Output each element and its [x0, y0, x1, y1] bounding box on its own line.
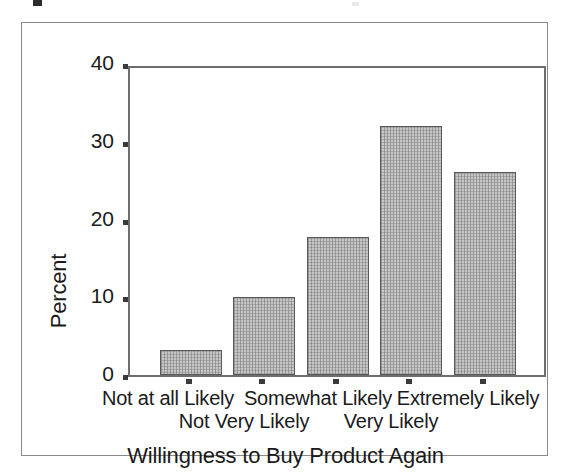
bar-not-very-likely[interactable]	[233, 297, 295, 375]
y-axis-title: Percent	[46, 221, 72, 361]
y-tick-label-10: 10	[91, 285, 114, 306]
bar-somewhat-likely[interactable]	[307, 237, 369, 375]
x-category-label-somewhat-likely: Somewhat Likely	[244, 387, 392, 409]
y-tick-label-40: 40	[91, 52, 114, 73]
x-tick-mark-4	[480, 379, 486, 384]
x-tick-mark-2	[333, 379, 339, 384]
x-category-label-extremely-likely: Extremely Likely	[397, 387, 539, 409]
x-axis-title: Willingness to Buy Product Again	[22, 443, 549, 469]
x-category-label-not-very-likely: Not Very Likely	[179, 410, 309, 432]
x-tick-mark-0	[186, 379, 192, 384]
y-tick-label-20: 20	[91, 208, 114, 229]
scan-artifact-mark-secondary	[352, 2, 359, 6]
bar-not-at-all-likely[interactable]	[160, 350, 222, 375]
x-tick-mark-3	[406, 379, 412, 384]
x-category-label-very-likely: Very Likely	[344, 410, 439, 432]
bar-very-likely[interactable]	[380, 126, 442, 375]
x-tick-mark-1	[259, 379, 265, 384]
y-tick-label-30: 30	[91, 130, 114, 151]
chart-figure-frame: Percent 40 30 20 10 0 Not at all Likely …	[21, 22, 548, 456]
plot-area	[128, 66, 546, 377]
bar-extremely-likely[interactable]	[454, 172, 516, 375]
y-tick-label-0: 0	[102, 363, 114, 384]
x-category-label-not-at-all-likely: Not at all Likely	[102, 387, 234, 409]
scan-artifact-mark	[33, 0, 42, 6]
